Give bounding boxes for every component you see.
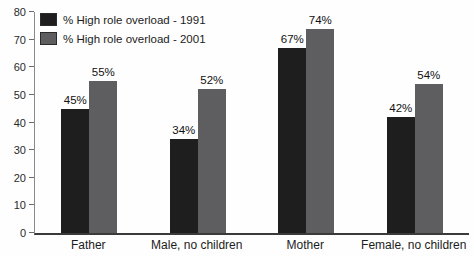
- role-overload-bar-chart: 01020304050607080 % High role overload -…: [0, 0, 474, 257]
- bar-groups: 45%55%34%52%67%74%42%54%: [35, 12, 469, 233]
- bar: [415, 84, 443, 233]
- y-tick-label: 60: [14, 61, 26, 73]
- bar-value-label: 34%: [172, 124, 195, 137]
- bar: [387, 117, 415, 233]
- bar-value-label: 42%: [389, 102, 412, 115]
- x-category-label: Female, no children: [360, 238, 469, 252]
- bar-column: 74%: [306, 14, 334, 233]
- bar-group-1: 45%55%: [61, 66, 117, 233]
- y-tick-label: 80: [14, 6, 26, 18]
- bar-column: 55%: [89, 66, 117, 233]
- y-tick-label: 40: [14, 117, 26, 129]
- plot-area: % High role overload - 1991 % High role …: [34, 12, 469, 235]
- bar: [278, 48, 306, 233]
- bar-value-label: 67%: [281, 33, 304, 46]
- bar-value-label: 74%: [309, 14, 332, 27]
- bar-group-4: 42%54%: [387, 69, 443, 233]
- bar-column: 54%: [415, 69, 443, 233]
- y-tick-label: 50: [14, 89, 26, 101]
- x-axis-labels: FatherMale, no childrenMotherFemale, no …: [34, 238, 468, 252]
- bar: [306, 29, 334, 233]
- x-category-label: Father: [34, 238, 143, 252]
- bar-column: 45%: [61, 94, 89, 233]
- y-tick-label: 10: [14, 199, 26, 211]
- y-tick-label: 30: [14, 144, 26, 156]
- y-tick-label: 0: [20, 227, 26, 239]
- bar-group-3: 67%74%: [278, 14, 334, 233]
- bar-value-label: 54%: [417, 69, 440, 82]
- bar-value-label: 55%: [92, 66, 115, 79]
- bar-column: 34%: [170, 124, 198, 233]
- bar-value-label: 45%: [64, 94, 87, 107]
- x-category-label: Mother: [251, 238, 360, 252]
- bar-column: 52%: [198, 74, 226, 233]
- bar: [198, 89, 226, 233]
- bar-group-2: 34%52%: [170, 74, 226, 233]
- y-axis: 01020304050607080: [0, 12, 34, 233]
- y-tick-label: 20: [14, 172, 26, 184]
- bar: [170, 139, 198, 233]
- bar: [89, 81, 117, 233]
- bar-value-label: 52%: [200, 74, 223, 87]
- bar-column: 42%: [387, 102, 415, 233]
- x-category-label: Male, no children: [143, 238, 252, 252]
- y-tick-label: 70: [14, 34, 26, 46]
- bar: [61, 109, 89, 233]
- bar-column: 67%: [278, 33, 306, 233]
